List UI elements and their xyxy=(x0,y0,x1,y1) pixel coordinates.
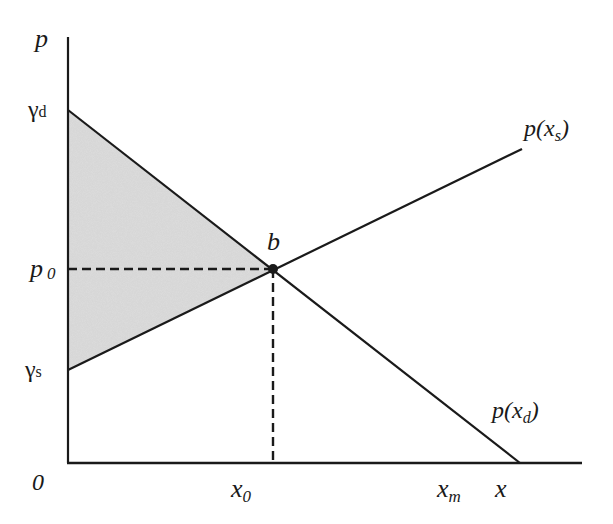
origin-label: 0 xyxy=(32,469,44,495)
supply-curve-label: p(xs) xyxy=(522,115,569,144)
p0-label: p0 xyxy=(28,254,56,283)
x-axis-label: x xyxy=(494,474,507,503)
supply-demand-diagram: p γd p0 γs 0 x0 xm x b p(xs) p(xd) xyxy=(0,0,613,524)
gamma-s-label: γs xyxy=(24,356,42,382)
equilibrium-label: b xyxy=(267,227,280,256)
y-axis-label: p xyxy=(33,24,48,53)
gamma-d-label: γd xyxy=(27,96,47,122)
demand-curve-label: p(xd) xyxy=(490,397,539,426)
xm-label: xm xyxy=(436,474,461,506)
equilibrium-point xyxy=(268,264,278,274)
shaded-surplus-region xyxy=(68,110,273,370)
x0-label: x0 xyxy=(230,474,252,506)
